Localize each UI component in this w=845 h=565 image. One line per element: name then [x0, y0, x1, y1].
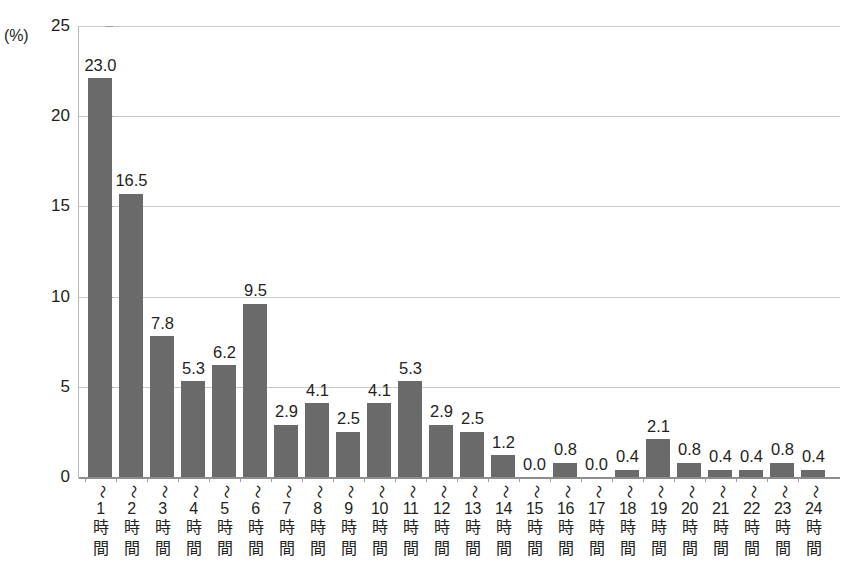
bar[interactable] [398, 381, 422, 477]
bar-value-label: 1.2 [483, 434, 524, 451]
x-tick-mark [488, 477, 489, 482]
x-axis-category-label: 〜19時間 [643, 483, 674, 562]
bar[interactable] [243, 304, 267, 477]
bar-value-label: 0.4 [607, 448, 648, 465]
bar[interactable] [646, 439, 670, 477]
x-axis-category-label: 〜10時間 [364, 483, 395, 562]
bar[interactable] [181, 381, 205, 477]
x-label-ji: 時 [806, 520, 822, 541]
bar-value-label: 5.3 [390, 360, 431, 377]
bar-slot[interactable]: 2.9 [426, 26, 457, 477]
x-label-ji: 時 [496, 520, 512, 541]
bar[interactable] [88, 78, 112, 477]
bar-value-label: 5.3 [173, 360, 214, 377]
x-label-ji: 時 [744, 520, 760, 541]
bar[interactable] [119, 194, 143, 477]
x-label-kan: 間 [341, 541, 357, 562]
bar[interactable] [305, 403, 329, 477]
x-label-ji: 時 [124, 520, 140, 541]
x-axis-labels: 〜1時間〜2時間〜3時間〜4時間〜5時間〜6時間〜7時間〜8時間〜9時間〜10時… [79, 483, 840, 565]
bar-slot[interactable]: 0.8 [674, 26, 705, 477]
bar[interactable] [429, 425, 453, 477]
bar[interactable] [708, 470, 732, 477]
bar[interactable] [801, 470, 825, 477]
x-axis-category-label: 〜18時間 [612, 483, 643, 562]
bar-slot[interactable]: 2.5 [457, 26, 488, 477]
x-label-kan: 間 [310, 541, 326, 562]
x-axis-category-label: 〜12時間 [426, 483, 457, 562]
x-tick-mark [798, 477, 799, 482]
x-label-tilde: 〜 [371, 485, 388, 499]
x-tick-mark [209, 477, 210, 482]
x-label-kan: 間 [465, 541, 481, 562]
bar-slot[interactable]: 2.9 [271, 26, 302, 477]
bar[interactable] [615, 470, 639, 477]
x-label-kan: 間 [558, 541, 574, 562]
x-label-kan: 間 [744, 541, 760, 562]
bar[interactable] [274, 425, 298, 477]
x-label-kan: 間 [496, 541, 512, 562]
bar-slot[interactable]: 0.0 [519, 26, 550, 477]
x-label-kan: 間 [217, 541, 233, 562]
bar[interactable] [770, 463, 794, 477]
bar-value-label: 16.5 [111, 172, 152, 189]
bar-slot[interactable]: 16.5 [116, 26, 147, 477]
x-label-ji: 時 [620, 520, 636, 541]
x-label-tilde: 〜 [619, 485, 636, 499]
bar-slot[interactable]: 1.2 [488, 26, 519, 477]
bar-value-label: 2.5 [452, 410, 493, 427]
x-label-tilde: 〜 [650, 485, 667, 499]
x-label-ji: 時 [93, 520, 109, 541]
bar-slot[interactable]: 4.1 [364, 26, 395, 477]
bar[interactable] [553, 463, 577, 477]
bar-value-label: 6.2 [204, 344, 245, 361]
y-tick-label: 5 [61, 378, 70, 395]
bar-slot[interactable]: 23.0 [85, 26, 116, 477]
x-tick-mark [147, 477, 148, 482]
x-label-tilde: 〜 [402, 485, 419, 499]
bar-slot[interactable]: 4.1 [302, 26, 333, 477]
bar-value-label: 4.1 [297, 382, 338, 399]
bar-slot[interactable]: 2.1 [643, 26, 674, 477]
x-label-kan: 間 [155, 541, 171, 562]
bar[interactable] [491, 455, 515, 477]
x-label-ji: 時 [682, 520, 698, 541]
x-label-ji: 時 [341, 520, 357, 541]
y-tick-label: 10 [51, 288, 70, 305]
x-label-tilde: 〜 [92, 485, 109, 499]
x-label-tilde: 〜 [526, 485, 543, 499]
bar-slot[interactable]: 0.0 [581, 26, 612, 477]
y-tick-label: 0 [61, 468, 70, 485]
x-label-tilde: 〜 [278, 485, 295, 499]
x-label-kan: 間 [713, 541, 729, 562]
x-label-ji: 時 [217, 520, 233, 541]
bar-slot[interactable]: 0.4 [612, 26, 643, 477]
bar[interactable] [460, 432, 484, 477]
x-label-tilde: 〜 [123, 485, 140, 499]
bar[interactable] [367, 403, 391, 477]
x-axis-category-label: 〜17時間 [581, 483, 612, 562]
x-axis-category-label: 〜13時間 [457, 483, 488, 562]
bar[interactable] [739, 470, 763, 477]
bar[interactable] [212, 365, 236, 477]
bar-value-label: 23.0 [80, 57, 121, 74]
bar-slot[interactable]: 6.2 [209, 26, 240, 477]
x-axis-category-label: 〜11時間 [395, 483, 426, 562]
x-label-tilde: 〜 [185, 485, 202, 499]
x-label-kan: 間 [186, 541, 202, 562]
x-label-ji: 時 [558, 520, 574, 541]
bar-slot[interactable]: 0.8 [550, 26, 581, 477]
bar[interactable] [336, 432, 360, 477]
bar-slot[interactable]: 2.5 [333, 26, 364, 477]
bar[interactable] [677, 463, 701, 477]
bar-slot[interactable]: 7.8 [147, 26, 178, 477]
bar-slot[interactable]: 0.4 [705, 26, 736, 477]
bar-slot[interactable]: 0.4 [798, 26, 829, 477]
bar-slot[interactable]: 0.8 [767, 26, 798, 477]
x-label-tilde: 〜 [433, 485, 450, 499]
bar[interactable] [150, 336, 174, 477]
bar-slot[interactable]: 5.3 [178, 26, 209, 477]
x-tick-mark [426, 477, 427, 482]
bar-value-label: 2.9 [266, 403, 307, 420]
bar-slot[interactable]: 0.4 [736, 26, 767, 477]
